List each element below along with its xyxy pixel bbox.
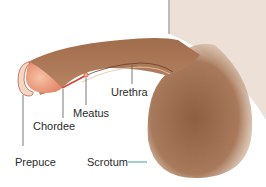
scrotum-label: Scrotum [87, 156, 128, 168]
meatus-label: Meatus [73, 107, 109, 119]
meatus-opening [84, 73, 88, 77]
prepuce-label: Prepuce [15, 156, 56, 168]
urethra-label: Urethra [111, 86, 148, 98]
chordee-label: Chordee [33, 120, 75, 132]
anatomy-diagram: Urethra Meatus Chordee Prepuce Scrotum [0, 0, 266, 187]
